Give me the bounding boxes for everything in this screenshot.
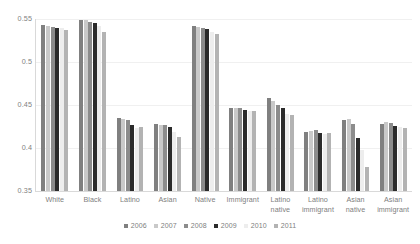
- y-axis-tick-label: 0.5: [4, 58, 32, 66]
- x-axis-category-label: White: [36, 195, 74, 214]
- bar-group: [224, 19, 262, 191]
- bar: [205, 29, 209, 191]
- bar: [351, 124, 355, 191]
- bar: [281, 108, 285, 191]
- bar: [154, 124, 158, 191]
- legend-item[interactable]: 2009: [214, 222, 237, 230]
- x-axis-category-label: Latino: [111, 195, 149, 214]
- bar: [117, 118, 121, 191]
- bar: [365, 167, 369, 191]
- bar-group-bars: [192, 19, 219, 191]
- legend-label: 2008: [191, 222, 207, 230]
- bar: [135, 128, 139, 191]
- bar-group: [262, 19, 300, 191]
- bar: [309, 131, 313, 191]
- bar-group: [36, 19, 74, 191]
- legend-swatch-icon: [124, 224, 129, 229]
- bar-group-bars: [229, 19, 256, 191]
- legend-label: 2010: [251, 222, 267, 230]
- bar: [327, 133, 331, 191]
- x-axis-category-label: Immigrant: [224, 195, 262, 214]
- bar: [356, 138, 360, 191]
- bar: [121, 119, 125, 191]
- bar: [60, 28, 64, 191]
- y-axis-tick-label: 0.45: [4, 101, 32, 109]
- bar-group-bars: [304, 19, 331, 191]
- bar: [126, 120, 130, 191]
- x-axis-category-label: Latino immigrant: [299, 195, 337, 214]
- bar-group: [111, 19, 149, 191]
- bar: [252, 111, 256, 191]
- bar: [360, 150, 364, 191]
- bar: [267, 98, 271, 191]
- bar-groups: [36, 19, 412, 191]
- bar-group: [186, 19, 224, 191]
- bar: [46, 26, 50, 191]
- bar-chart: 0.350.40.450.50.55 WhiteBlackLatinoAsian…: [0, 0, 420, 244]
- x-axis-category-label: Black: [74, 195, 112, 214]
- bar: [168, 127, 172, 191]
- x-axis-category-label: Asian: [149, 195, 187, 214]
- legend-label: 2011: [281, 222, 296, 230]
- legend-label: 2009: [221, 222, 237, 230]
- bar-group: [149, 19, 187, 191]
- bar-group-bars: [117, 19, 144, 191]
- bar: [102, 32, 106, 191]
- bar: [398, 127, 402, 191]
- bar: [215, 34, 219, 191]
- legend-item[interactable]: 2007: [154, 222, 177, 230]
- legend-item[interactable]: 2010: [244, 222, 267, 230]
- bar: [201, 28, 205, 191]
- plot-area: [36, 19, 412, 191]
- bar: [84, 20, 88, 191]
- x-axis-category-label: Native: [186, 195, 224, 214]
- x-axis-category-label: Asian native: [337, 195, 375, 214]
- legend-swatch-icon: [154, 224, 159, 229]
- bar: [97, 26, 101, 191]
- bar: [318, 133, 322, 191]
- bar: [304, 132, 308, 191]
- bar-group-bars: [79, 19, 106, 191]
- bar: [342, 120, 346, 191]
- bar: [229, 108, 233, 191]
- bar: [159, 125, 163, 191]
- legend-swatch-icon: [184, 224, 189, 229]
- bar-group-bars: [154, 19, 181, 191]
- legend-swatch-icon: [244, 224, 249, 229]
- y-axis-tick-label: 0.4: [4, 144, 32, 152]
- bar-group: [337, 19, 375, 191]
- y-axis-ticks: 0.350.40.450.50.55: [0, 0, 32, 244]
- bar: [393, 126, 397, 191]
- x-axis-labels: WhiteBlackLatinoAsianNativeImmigrantLati…: [36, 195, 412, 214]
- legend-swatch-icon: [214, 224, 219, 229]
- legend-item[interactable]: 2006: [124, 222, 147, 230]
- chart-legend: 200620072008200920102011: [0, 222, 420, 230]
- bar: [196, 27, 200, 191]
- bar: [314, 130, 318, 191]
- bar-group-bars: [342, 19, 369, 191]
- bar: [41, 25, 45, 191]
- bar: [238, 108, 242, 191]
- legend-item[interactable]: 2011: [274, 222, 296, 230]
- bar: [290, 115, 294, 191]
- legend-item[interactable]: 2008: [184, 222, 207, 230]
- bar: [163, 125, 167, 191]
- bar: [51, 27, 55, 191]
- bar: [380, 124, 384, 191]
- bar: [271, 101, 275, 191]
- bar: [389, 123, 393, 191]
- legend-label: 2007: [161, 222, 177, 230]
- bar-group-bars: [380, 19, 407, 191]
- bar-group: [374, 19, 412, 191]
- bar: [79, 20, 83, 191]
- bar-group: [299, 19, 337, 191]
- bar: [384, 122, 388, 191]
- x-axis-category-label: Asian immigrant: [374, 195, 412, 214]
- bar-group: [74, 19, 112, 191]
- bar: [93, 23, 97, 191]
- bar: [276, 105, 280, 191]
- gridline: [36, 191, 412, 192]
- bar: [234, 108, 238, 191]
- bar: [192, 26, 196, 191]
- bar: [403, 128, 407, 191]
